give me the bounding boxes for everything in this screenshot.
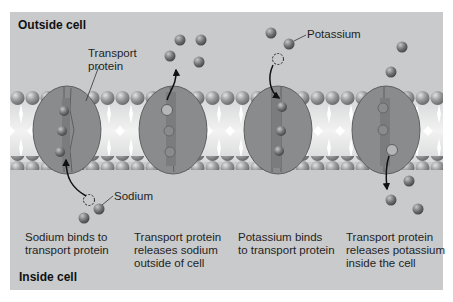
transport-protein-1	[33, 86, 101, 174]
potassium-label: Potassium	[307, 28, 361, 41]
inside-cell-label: Inside cell	[19, 270, 77, 284]
step4-caption: Transport protein releases potassium ins…	[346, 231, 445, 270]
transport-protein-2	[139, 86, 207, 174]
sodium-label: Sodium	[114, 190, 153, 203]
transport-protein-3	[244, 86, 312, 174]
transport-protein-4	[352, 86, 420, 174]
outside-cell-label: Outside cell	[18, 18, 86, 32]
transport-protein-label: Transport protein	[88, 47, 137, 73]
step3-caption: Potassium binds to transport protein	[238, 231, 335, 257]
step2-caption: Transport protein releases sodium outsid…	[134, 231, 221, 270]
step1-caption: Sodium binds to transport protein	[25, 231, 109, 257]
